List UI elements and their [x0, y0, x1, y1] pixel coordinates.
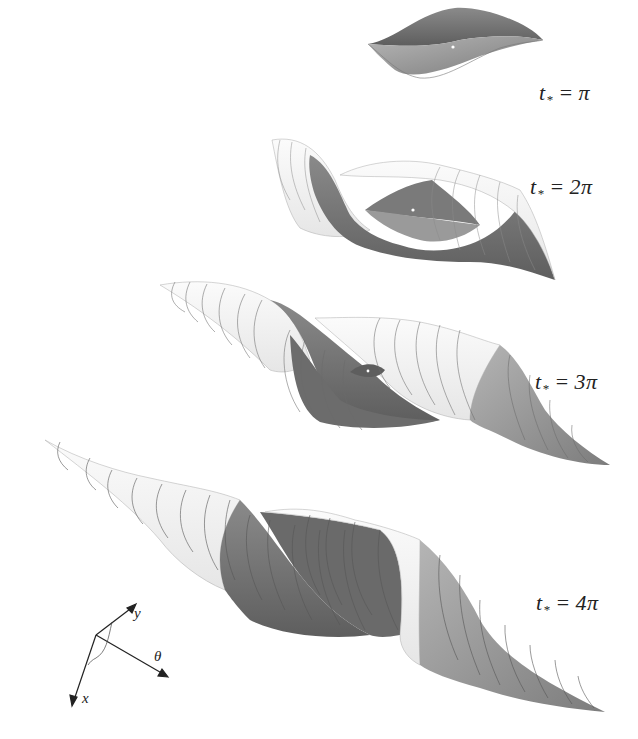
time-value: 4π [576, 590, 599, 615]
time-variable: t [535, 369, 542, 394]
label-t-pi: t*=π [539, 80, 590, 108]
time-variable: t [530, 174, 537, 199]
equals-sign: = [556, 369, 569, 394]
center-point [367, 370, 370, 373]
axis-label-theta: θ [154, 648, 161, 665]
surface-t-2pi [272, 139, 555, 280]
label-t-4pi: t*=4π [536, 590, 599, 618]
time-subscript: * [547, 92, 554, 107]
y-axis-arrow [96, 606, 134, 635]
time-variable: t [536, 590, 543, 615]
time-subscript: * [538, 186, 545, 201]
surface-t-4pi [45, 440, 605, 712]
axis-label-x: x [82, 690, 89, 707]
center-point [411, 208, 414, 211]
time-value: 3π [575, 369, 598, 394]
equals-sign: = [557, 590, 570, 615]
center-point [451, 45, 454, 48]
time-value: π [579, 80, 591, 105]
label-t-2pi: t*=2π [530, 174, 593, 202]
time-subscript: * [544, 602, 551, 617]
label-t-3pi: t*=3π [535, 369, 598, 397]
x-arrowhead-icon [70, 695, 77, 706]
time-variable: t [539, 80, 546, 105]
time-subscript: * [543, 381, 550, 396]
axis-label-y: y [134, 605, 141, 622]
time-value: 2π [570, 174, 593, 199]
equals-sign: = [560, 80, 573, 105]
surface-t-pi [368, 8, 543, 78]
theta-arrowhead-icon [158, 669, 168, 677]
equals-sign: = [551, 174, 564, 199]
